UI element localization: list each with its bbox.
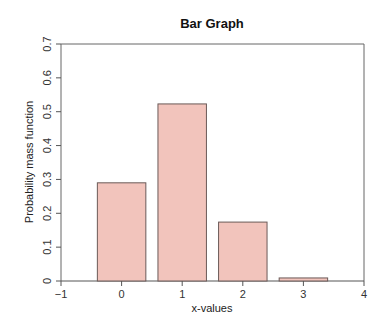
x-axis: −101234 [55, 281, 367, 300]
x-tick-label: 3 [300, 288, 306, 300]
bar-3 [279, 278, 327, 281]
y-tick-label: 0.3 [41, 172, 53, 187]
bars-group [97, 104, 327, 281]
y-tick-label: 0.7 [41, 36, 53, 51]
x-axis-label: x-values [192, 302, 233, 314]
x-tick-label: −1 [55, 288, 68, 300]
x-tick-label: 4 [361, 288, 367, 300]
bar-0 [97, 183, 145, 281]
y-tick-label: 0.2 [41, 206, 53, 221]
y-tick-label: 0.5 [41, 104, 53, 119]
bar-1 [158, 104, 206, 281]
x-tick-label: 1 [179, 288, 185, 300]
y-tick-label: 0.6 [41, 70, 53, 85]
y-axis: 00.10.20.30.40.50.60.7 [41, 36, 61, 284]
bar-2 [219, 222, 267, 281]
chart-title: Bar Graph [180, 16, 244, 31]
y-tick-label: 0.1 [41, 239, 53, 254]
x-tick-label: 2 [240, 288, 246, 300]
x-tick-label: 0 [119, 288, 125, 300]
y-axis-label: Probability mass function [23, 101, 35, 223]
bar-chart: Bar Graph 00.10.20.30.40.50.60.7 −101234… [0, 0, 385, 322]
y-tick-label: 0 [41, 278, 53, 284]
y-tick-label: 0.4 [41, 138, 53, 153]
